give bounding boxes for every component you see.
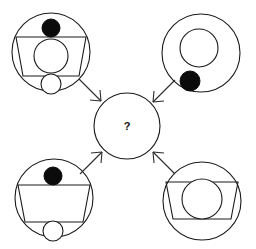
panel-top-left-small-circle	[41, 74, 61, 94]
puzzle-diagram: ?	[0, 0, 256, 249]
center-question-mark: ?	[124, 120, 131, 132]
panel-bottom-left[interactable]	[15, 159, 93, 241]
arrow-bottom-right-to-center	[153, 152, 175, 174]
arrow-bottom-left-to-center	[80, 152, 102, 174]
panel-top-right[interactable]	[162, 14, 240, 92]
panel-bottom-left-filled-dot	[44, 167, 62, 185]
panel-top-left[interactable]	[12, 13, 90, 94]
panel-top-right-inner-circle	[180, 29, 218, 67]
panel-bottom-right-inner-circle	[182, 179, 222, 219]
panel-top-right-filled-dot	[180, 71, 200, 91]
center-answer-node[interactable]: ?	[94, 93, 160, 159]
panel-bottom-left-small-circle	[43, 221, 63, 241]
arrow-top-right-to-center	[153, 80, 175, 102]
arrow-top-left-to-center	[79, 79, 101, 101]
panel-top-left-filled-dot	[42, 19, 60, 37]
panel-top-left-inner-circle	[34, 39, 68, 73]
diagram-canvas: ?	[0, 0, 256, 249]
